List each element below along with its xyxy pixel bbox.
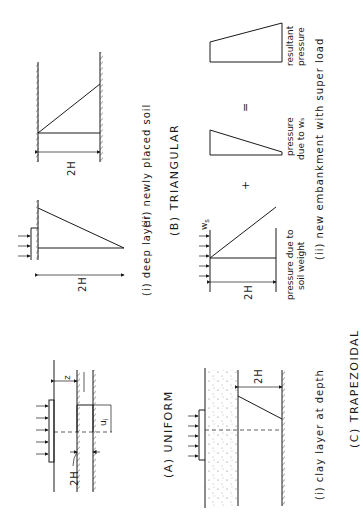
resultant-pressure-label: resultant — [285, 25, 295, 66]
caption-a-uniform: (A) UNIFORM — [162, 390, 175, 478]
dimension-2h: 2H — [243, 284, 254, 300]
dimension-2h: 2H — [253, 368, 264, 384]
subfigure-label: (ii) newly placed soil — [141, 104, 152, 228]
resultant-pressure-label: pressure — [296, 27, 306, 66]
load-arrows — [199, 236, 209, 276]
dimension-z: z — [62, 375, 72, 380]
dimension-2h: 2H — [66, 160, 77, 176]
subfigure-label: (ii) new embankment with super load — [314, 38, 325, 260]
fig-b-i-deep-layer: 2H (i) deep layer — [18, 200, 152, 296]
dimension-ui: ui — [98, 418, 110, 426]
dimension-2h: 2H — [77, 276, 88, 292]
plus-sign: + — [239, 179, 252, 190]
load-arrows — [188, 416, 198, 456]
pore-pressure-distribution-figure: 2H (ii) newly placed soil 2H (i) deep la… — [0, 0, 363, 518]
fig-a-uniform: z ui 2H — [36, 360, 112, 492]
soil-weight-pressure-label: pressure due to — [285, 229, 295, 300]
subfigure-label: (i) clay layer at depth — [314, 369, 325, 500]
surcharge-pressure-label: pressure — [285, 117, 295, 156]
caption-b-triangular: (B) TRIANGULAR — [168, 124, 181, 236]
surcharge-ws: ws — [199, 219, 211, 230]
soil-weight-pressure-label: soil weight — [296, 241, 306, 290]
load-arrows — [18, 236, 30, 256]
equals-sign: = — [239, 101, 252, 112]
subfigure-label: (i) deep layer — [141, 215, 152, 296]
load-arrows — [36, 406, 48, 454]
caption-c-trapezoidal: (C) TRAPEZOIDAL — [348, 329, 361, 448]
fig-b-ii-newly-placed-soil: 2H (ii) newly placed soil — [36, 52, 152, 228]
diagram-svg: 2H (ii) newly placed soil 2H (i) deep la… — [0, 0, 363, 518]
fig-c-i-clay-layer: 2H (i) clay layer at depth — [188, 368, 325, 508]
fig-c-ii-embankment-superload: ws 2H pressure due to soil weight + pres… — [199, 23, 325, 300]
dimension-2h: 2H — [69, 470, 80, 486]
surcharge-pressure-label: due to wₛ — [296, 118, 306, 160]
